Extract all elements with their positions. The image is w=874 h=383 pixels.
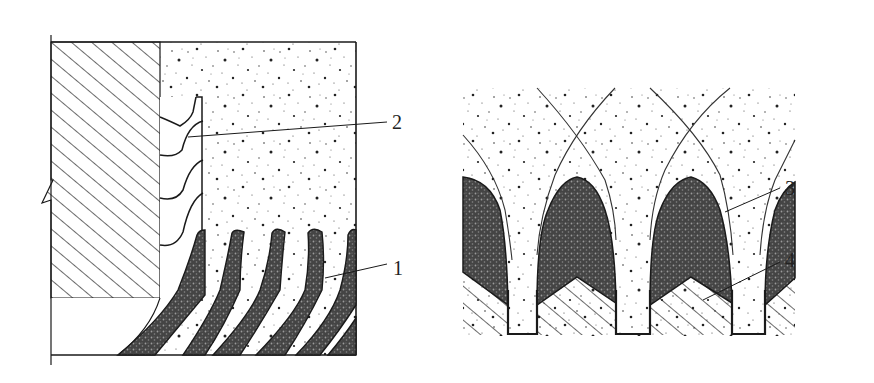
label-3: 3	[785, 177, 795, 199]
left-panel: 2 1	[42, 35, 403, 365]
hatched-wall	[42, 42, 160, 298]
stipple-fill-region-right	[463, 88, 795, 336]
label-2: 2	[392, 111, 402, 133]
figure-canvas: 2 1 3 4	[0, 0, 874, 383]
right-panel: 3 4	[463, 88, 795, 336]
label-1: 1	[393, 257, 403, 279]
label-4: 4	[785, 249, 795, 271]
